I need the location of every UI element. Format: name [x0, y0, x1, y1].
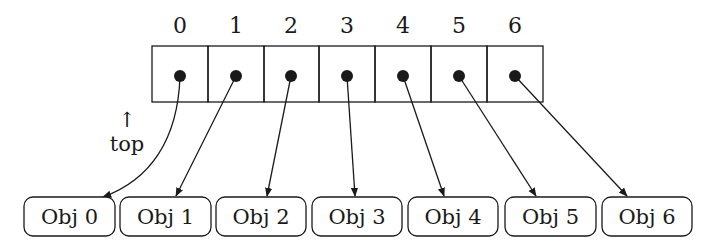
array-pointer-diagram: 0 1 2 3 4 5 6 ↑ top: [0, 0, 716, 252]
pointer-arrows: [103, 76, 627, 197]
object-box-3: Obj 3: [312, 197, 402, 236]
up-arrow-icon: ↑: [118, 108, 136, 132]
index-label-6: 6: [508, 13, 522, 38]
pointer-arrow-3: [347, 76, 355, 196]
object-label-3: Obj 3: [328, 205, 385, 229]
object-label-2: Obj 2: [232, 205, 289, 229]
index-label-3: 3: [340, 13, 354, 38]
index-label-2: 2: [284, 13, 298, 38]
pointer-arrow-4: [403, 76, 444, 196]
pointer-arrow-6: [515, 76, 627, 196]
object-label-1: Obj 1: [137, 205, 194, 229]
index-label-0: 0: [173, 13, 187, 38]
index-label-1: 1: [229, 13, 243, 38]
object-box-0: Obj 0: [24, 197, 115, 236]
object-boxes: Obj 0 Obj 1 Obj 2 Obj 3 Obj 4 Obj 5 Obj …: [24, 197, 692, 236]
pointer-arrow-2: [267, 76, 291, 196]
object-box-5: Obj 5: [505, 197, 596, 236]
array-index-labels: 0 1 2 3 4 5 6: [173, 13, 522, 38]
index-label-5: 5: [452, 13, 466, 38]
pointer-arrow-1: [176, 76, 236, 196]
object-box-2: Obj 2: [216, 197, 306, 236]
object-box-6: Obj 6: [602, 197, 692, 236]
object-label-4: Obj 4: [424, 205, 481, 229]
pointer-arrow-5: [459, 76, 536, 196]
object-label-0: Obj 0: [41, 205, 98, 229]
top-label: top: [110, 132, 145, 156]
top-marker: ↑ top: [110, 108, 145, 156]
object-box-1: Obj 1: [120, 197, 211, 236]
object-label-5: Obj 5: [522, 205, 579, 229]
object-box-4: Obj 4: [408, 197, 498, 236]
object-label-6: Obj 6: [618, 205, 675, 229]
index-label-4: 4: [396, 13, 410, 38]
